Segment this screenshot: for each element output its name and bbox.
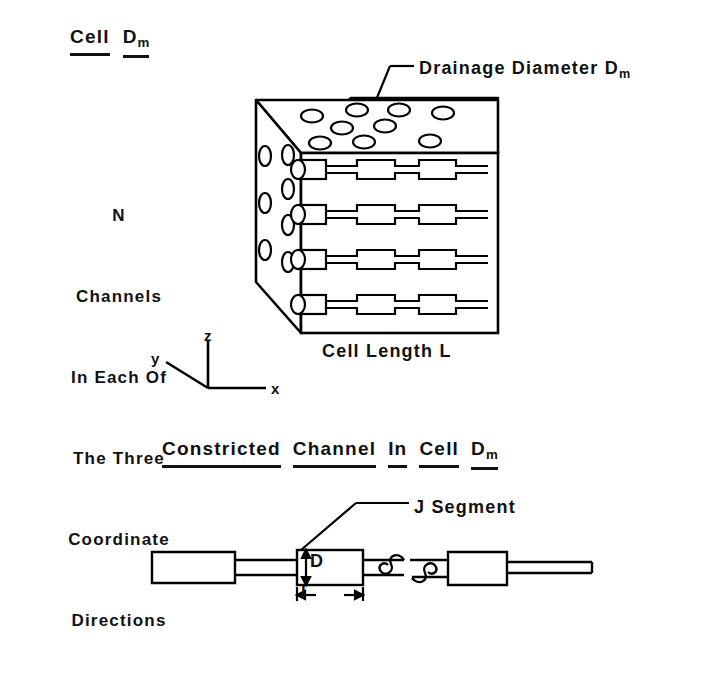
channels-line: Channels (44, 283, 194, 310)
length-label: l (301, 583, 307, 603)
cube-front-face (301, 153, 498, 333)
diameter-label: D (310, 551, 324, 572)
axis-label-z: z (204, 327, 213, 344)
title-word-d: D (471, 438, 486, 459)
channels-line: Directions (44, 607, 194, 634)
title-cell-dm: CellDm (70, 26, 162, 58)
channels-line: N (44, 202, 194, 229)
j-segment-label: J Segment (414, 497, 516, 518)
j-segment-leader (301, 503, 409, 550)
axis-label-y: y (151, 350, 161, 367)
title-word: Cell (419, 438, 459, 468)
subscript-m: m (486, 447, 498, 462)
subscript-m: m (619, 67, 630, 81)
bottom-caption: J = Number Of Different Segments In Chan… (146, 645, 576, 697)
title-constricted-channel: ConstrictedChannelInCellDm (162, 438, 510, 470)
drainage-diameter-text: Drainage Diameter D (419, 58, 619, 78)
title-word: Constricted (162, 438, 281, 468)
channels-line: Coordinate (44, 526, 194, 553)
channel-right-segment (448, 552, 507, 585)
caption-line: J = Number Of Different Segments (146, 693, 576, 697)
constricted-channel-diagram (152, 503, 592, 601)
title-word-dm: Dm (123, 26, 150, 58)
subscript-m: m (138, 35, 150, 50)
cell-length-label: Cell Length L (322, 341, 452, 362)
channels-description-block: N Channels In Each Of The Three Coordina… (44, 148, 194, 661)
title-word-dm: Dm (471, 438, 498, 470)
title-word: Cell (70, 26, 110, 56)
channels-line: In Each Of (44, 364, 194, 391)
drainage-diameter-label: Drainage Diameter Dm (419, 58, 630, 81)
title-word-d: D (123, 26, 138, 47)
title-word: In (388, 438, 407, 468)
cell-cube-diagram (166, 66, 498, 388)
title-word: Channel (293, 438, 376, 468)
axis-label-x: x (271, 380, 281, 397)
